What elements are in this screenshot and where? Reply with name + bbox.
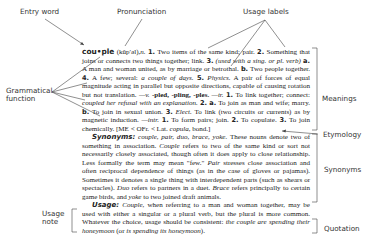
pronunciation: (kŭp′əl), — [117, 48, 141, 56]
usage-label-physics: Physics. — [207, 74, 230, 82]
leader-usage-label-1 — [208, 20, 265, 48]
bracket-usage-note — [72, 209, 77, 232]
callout-usage-labels: Usage labels — [243, 8, 289, 16]
leader-usage-label-3 — [265, 20, 285, 47]
usage-block: Usage: Couple, when referring to a man a… — [82, 201, 310, 235]
quotation-paren: ). — [201, 227, 205, 235]
leader-grammatical-3 — [52, 92, 85, 100]
example-4: a couple of days. — [141, 74, 193, 82]
bracket-quotation — [312, 219, 317, 233]
sense-letter: a. — [303, 57, 310, 65]
callout-synonyms: Synonyms — [324, 166, 361, 174]
callout-usage-note-line2: note — [42, 218, 64, 226]
synonym-word: yoke — [129, 193, 142, 201]
meaning-1: Two items of the same kind; pair. — [157, 48, 255, 56]
sense-number: 1. — [226, 91, 233, 99]
sense-number: 3. — [166, 108, 173, 116]
synonym-word: Pair — [208, 159, 221, 167]
synonym-word: Couple — [159, 142, 179, 150]
dictionary-entry: cou•ple (kŭp′əl),n. 1. Two items of the … — [82, 48, 310, 235]
part-of-speech-verb: —v. — [139, 91, 150, 99]
quotation-2: is spending its honeymoon — [126, 227, 201, 235]
synonyms-block: Synonyms: couple, pair, duo, brace, yoke… — [82, 133, 310, 201]
sense-number: 2. — [200, 99, 207, 107]
intransitive-label: —intr. — [142, 116, 159, 124]
sense-number: 2. — [257, 48, 264, 56]
leader-pronunciation — [125, 19, 142, 46]
usage-word: Couple, — [122, 201, 144, 209]
part-of-speech-noun: n. — [140, 48, 145, 56]
sense-letter: b. — [241, 65, 248, 73]
leader-entry-word — [45, 19, 84, 45]
verb-meaning-2b: To join in sexual union. — [92, 108, 163, 116]
sense-letter: b. — [82, 108, 89, 116]
usage-label-number: (used with a sing. or pl. verb) — [216, 57, 301, 65]
sense-number: 4. — [82, 74, 89, 82]
meaning-4: A few; several: — [92, 74, 138, 82]
callout-grammatical-function-line2: function — [6, 95, 53, 103]
transitive-label: —tr. — [212, 91, 224, 99]
bracket-meanings — [312, 48, 317, 130]
intr-meaning-2: To copulate. — [241, 116, 277, 124]
synonym-word: Duo — [117, 184, 129, 192]
synonyms-text: refers to partners in a duet. — [132, 184, 211, 192]
callout-meanings: Meanings — [322, 95, 356, 103]
sense-number: 3. — [279, 116, 286, 124]
intr-meaning-1: To form pairs; join. — [171, 116, 228, 124]
callout-etymology: Etymology — [323, 131, 361, 139]
meaning-3b: Two people together. — [250, 65, 310, 73]
callout-usage-note: Usage note — [42, 210, 64, 227]
verb-inflections: -pled, -pling, -ples. — [152, 91, 209, 99]
sense-letter: a. — [209, 99, 216, 107]
etymology-word: copula, — [170, 125, 191, 133]
callout-quotation: Quotation — [324, 225, 360, 233]
sense-number: 2. — [231, 116, 238, 124]
verb-meaning-1: To link together; connect: — [235, 91, 310, 99]
quotation-paren: (or — [116, 227, 124, 235]
etymology-prefix: [ME < OFr. < Lat. — [116, 125, 168, 133]
synonyms-text: to two joined draft animals. — [143, 193, 221, 201]
meaning-3a: A man and woman united, as by marriage o… — [82, 65, 239, 73]
callout-pronunciation: Pronunciation — [117, 8, 166, 16]
sense-number: 1. — [162, 116, 169, 124]
definition-block: cou•ple (kŭp′əl),n. 1. Two items of the … — [82, 48, 310, 133]
synonyms-list: couple, pair, duo, brace, yoke. — [138, 133, 227, 141]
verb-meaning-2a: To join as man and wife; marry. — [218, 99, 310, 107]
usage-heading: Usage: — [92, 201, 119, 209]
usage-label-elect: Elect. — [176, 108, 192, 116]
etymology-suffix: bond.] — [192, 125, 210, 133]
synonym-word: Brace — [213, 184, 230, 192]
bracket-synonyms — [312, 134, 317, 202]
etymology: [ME < OFr. < Lat. copula, bond.] — [116, 125, 210, 133]
callout-grammatical-function: Grammatical function — [6, 87, 53, 104]
sense-number: 5. — [197, 74, 204, 82]
sense-number: 1. — [148, 48, 155, 56]
callout-entry-word: Entry word — [20, 8, 59, 16]
synonyms-heading: Synonyms: — [92, 133, 135, 141]
sense-number: 3. — [206, 57, 213, 65]
verb-example-1: coupled her refusal with an explanation. — [82, 99, 198, 107]
headword: cou•ple — [82, 47, 114, 56]
